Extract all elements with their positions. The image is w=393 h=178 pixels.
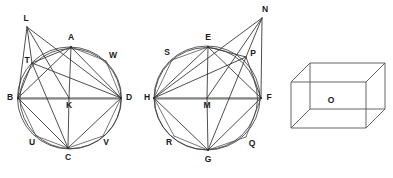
figure-canvas: A B C D K L T W U V: [0, 0, 393, 178]
middle-circle-diagram: E H G F M N P S R Q: [144, 4, 272, 164]
point-label-f: F: [266, 92, 271, 102]
point-label-v: V: [103, 137, 109, 147]
point-label-l: L: [23, 13, 28, 23]
point-label-s: S: [164, 47, 170, 57]
point-label-p: P: [250, 48, 256, 58]
point-label-w: W: [109, 50, 118, 60]
box-label-o: O: [328, 95, 335, 105]
box-back-face: [310, 63, 385, 109]
geometry-figure-sheet: A B C D K L T W U V: [0, 0, 393, 178]
point-label-n: N: [262, 4, 268, 14]
middle-circle-inner-stroke: [155, 48, 258, 150]
point-label-q: Q: [249, 138, 256, 148]
point-label-h: H: [144, 92, 150, 102]
rectangular-box-wireframe: O: [291, 63, 385, 128]
point-label-t: T: [24, 55, 30, 65]
point-label-a: A: [68, 32, 74, 42]
point-label-b: B: [7, 92, 13, 102]
point-label-c: C: [65, 152, 71, 162]
point-label-r: R: [166, 137, 172, 147]
point-label-m: M: [203, 100, 210, 110]
point-label-k: K: [66, 100, 73, 110]
point-label-d: D: [126, 92, 132, 102]
box-depth-edges: [291, 63, 385, 128]
point-label-e: E: [205, 32, 211, 42]
left-circle-diagram: A B C D K L T W U V: [7, 13, 132, 162]
point-label-u: U: [29, 137, 35, 147]
point-label-g: G: [205, 154, 212, 164]
left-circle-chords: [18, 27, 121, 148]
